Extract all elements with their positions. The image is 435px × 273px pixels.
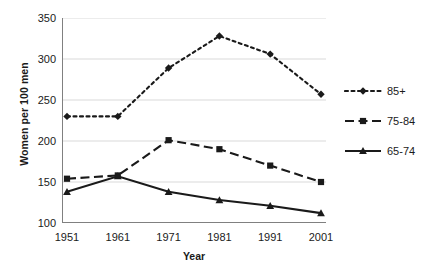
x-axis-tick-labels: 1951 1961 1971 1981 1991 2001 bbox=[62, 231, 326, 247]
data-point-diamond-marker bbox=[359, 87, 366, 94]
legend-sample-dashed-square-icon bbox=[344, 114, 382, 128]
data-point-square-marker bbox=[267, 163, 273, 169]
legend-sample-dotted-diamond-icon bbox=[344, 84, 382, 98]
legend-item-85plus: 85+ bbox=[344, 76, 434, 106]
y-tick-label: 300 bbox=[22, 54, 56, 65]
y-axis-tick-labels: 350 300 250 200 150 100 bbox=[18, 18, 56, 223]
y-tick-label: 350 bbox=[22, 13, 56, 24]
series-line bbox=[67, 140, 321, 182]
legend-sample-solid-triangle-icon bbox=[344, 144, 382, 158]
y-tick-label: 200 bbox=[22, 136, 56, 147]
series-65-74 bbox=[63, 172, 325, 216]
data-point-square-marker bbox=[64, 176, 70, 182]
series-85+ bbox=[63, 32, 324, 120]
legend-label: 65-74 bbox=[387, 145, 415, 157]
y-tick-label: 100 bbox=[22, 218, 56, 229]
x-tick-label: 1951 bbox=[42, 231, 92, 243]
plot-area bbox=[62, 18, 326, 223]
y-tick-label: 150 bbox=[22, 177, 56, 188]
legend-item-75-84: 75-84 bbox=[344, 106, 434, 136]
data-point-square-marker bbox=[318, 179, 324, 185]
series-line bbox=[67, 36, 321, 116]
y-tick-label: 250 bbox=[22, 95, 56, 106]
data-point-diamond-marker bbox=[63, 113, 70, 120]
x-tick-label: 1991 bbox=[245, 231, 295, 243]
legend-item-65-74: 65-74 bbox=[344, 136, 434, 166]
data-point-diamond-marker bbox=[267, 50, 274, 57]
data-point-square-marker bbox=[166, 137, 172, 143]
plot-svg bbox=[62, 18, 326, 223]
line-chart: Women per 100 men 350 300 250 200 150 10… bbox=[0, 0, 435, 273]
data-point-square-marker bbox=[216, 146, 222, 152]
series-75-84 bbox=[64, 137, 324, 185]
data-point-square-marker bbox=[360, 118, 366, 124]
chart-legend: 85+ 75-84 65-74 bbox=[344, 76, 434, 166]
x-tick-label: 1971 bbox=[144, 231, 194, 243]
x-axis-title: Year bbox=[62, 250, 326, 262]
x-tick-label: 1961 bbox=[93, 231, 143, 243]
x-tick-label: 2001 bbox=[296, 231, 346, 243]
legend-label: 75-84 bbox=[387, 115, 415, 127]
x-tick-label: 1981 bbox=[194, 231, 244, 243]
legend-label: 85+ bbox=[387, 85, 406, 97]
